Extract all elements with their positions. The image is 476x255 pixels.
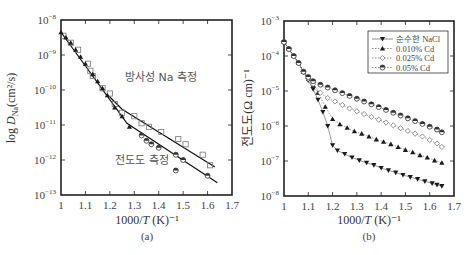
x-tick-label: 1.3 [350, 200, 364, 212]
marker-up-triangle [381, 139, 386, 144]
y-axis-label: log DNa(cm²/s) [4, 73, 20, 144]
marker-up-triangle [432, 158, 437, 163]
x-tick-label: 1 [281, 200, 287, 212]
marker-open-square [176, 136, 181, 141]
x-tick-label: 1 [58, 199, 64, 211]
legend-item-label: 0.010% Cd [396, 44, 435, 54]
marker-open-diamond [383, 120, 388, 125]
y-tick-label: 10−13 [34, 188, 56, 201]
x-tick-label: 1.4 [152, 199, 166, 211]
marker-down-triangle [349, 155, 354, 160]
panel-b-conductivity-chart: 11.11.21.31.41.51.61.710−310−410−510−610… [241, 14, 461, 243]
y-tick-label: 10−12 [34, 153, 56, 166]
marker-open-diamond [354, 109, 359, 114]
annotation-radioactive-na: 방사성 Na 측정 [125, 71, 197, 84]
x-tick-label: 1.6 [423, 200, 437, 212]
marker-up-triangle [112, 105, 117, 110]
y-tick-label: 10−3 [261, 14, 280, 27]
marker-open-diamond [325, 95, 330, 100]
marker-down-triangle [371, 163, 376, 168]
marker-open-diamond [376, 117, 381, 122]
marker-down-triangle [342, 152, 347, 157]
marker-open-diamond [332, 99, 337, 104]
legend-item-label: 0.05% Cd [396, 63, 431, 73]
marker-down-triangle [315, 98, 320, 103]
marker-up-triangle [410, 150, 415, 155]
marker-open-diamond [439, 144, 444, 149]
y-axis-label: 전도도(Ω cm)⁻¹ [241, 69, 255, 147]
marker-up-triangle [396, 144, 401, 149]
y-tick-label: 10−5 [261, 84, 280, 97]
marker-open-diamond [340, 102, 345, 107]
marker-down-triangle [439, 184, 444, 189]
marker-open-diamond [413, 131, 418, 136]
marker-down-triangle [364, 161, 369, 166]
marker-open-diamond [391, 123, 396, 128]
marker-down-triangle [320, 110, 325, 115]
x-tick-label: 1.7 [447, 200, 461, 212]
marker-open-diamond [427, 137, 432, 142]
marker-open-diamond [398, 126, 403, 131]
legend-item-label: 순수한 NaCl [396, 34, 441, 44]
marker-open-diamond [362, 112, 367, 117]
marker-open-square [183, 142, 188, 147]
plot-frame [61, 20, 232, 195]
marker-down-triangle [335, 148, 340, 153]
marker-open-diamond [405, 128, 410, 133]
x-axis-label: 1000/T (K)⁻¹ [115, 213, 179, 227]
y-tick-label: 10−6 [261, 119, 280, 132]
x-tick-label: 1.1 [79, 199, 93, 211]
marker-open-square [200, 152, 205, 157]
marker-up-triangle [374, 137, 379, 142]
marker-up-triangle [366, 134, 371, 139]
marker-down-triangle [357, 158, 362, 163]
caption-a: (a) [141, 230, 154, 243]
y-tick-label: 10−9 [38, 48, 57, 61]
x-tick-label: 1.6 [201, 199, 215, 211]
y-tick-label: 10−8 [38, 13, 57, 26]
marker-down-triangle [379, 166, 384, 171]
x-tick-label: 1.3 [127, 199, 141, 211]
marker-up-triangle [417, 152, 422, 157]
marker-up-triangle [388, 142, 393, 147]
figure: 11.11.21.31.41.51.61.710−810−910−1010−11… [0, 0, 476, 255]
marker-down-triangle [325, 124, 330, 129]
marker-up-triangle [403, 147, 408, 152]
annotation-conductivity: 전도도 측정 [115, 154, 169, 167]
marker-up-triangle [359, 131, 364, 136]
marker-up-triangle [337, 122, 342, 127]
marker-down-triangle [393, 170, 398, 175]
x-tick-label: 1.7 [225, 199, 239, 211]
marker-up-triangle [323, 104, 328, 109]
legend: 순수한 NaCl0.010% Cd0.025% Cd0.05% Cd [368, 31, 448, 73]
x-tick-label: 1.1 [301, 200, 315, 212]
marker-up-triangle [352, 129, 357, 134]
x-tick-label: 1.5 [399, 200, 413, 212]
marker-up-triangle [439, 160, 444, 165]
caption-b: (b) [363, 230, 376, 243]
x-tick-label: 1.4 [374, 200, 388, 212]
marker-open-diamond [347, 106, 352, 111]
marker-up-triangle [330, 116, 335, 121]
x-tick-label: 1.5 [176, 199, 190, 211]
x-tick-label: 1.2 [103, 199, 117, 211]
marker-open-diamond [420, 134, 425, 139]
legend-item-label: 0.025% Cd [396, 53, 435, 63]
marker-open-diamond [434, 141, 439, 146]
x-tick-label: 1.2 [326, 200, 340, 212]
x-axis-label: 1000/T (K)⁻¹ [337, 213, 401, 227]
y-tick-label: 10−8 [261, 189, 280, 202]
marker-up-triangle [58, 30, 63, 35]
y-tick-label: 10−7 [261, 154, 280, 167]
panel-a-diffusion-chart: 11.11.21.31.41.51.61.710−810−910−1010−11… [4, 13, 239, 243]
y-tick-label: 10−11 [34, 118, 56, 131]
marker-open-diamond [369, 114, 374, 119]
y-tick-label: 10−4 [261, 49, 280, 62]
marker-up-triangle [345, 125, 350, 130]
y-tick-label: 10−10 [34, 83, 56, 96]
marker-up-triangle [425, 155, 430, 160]
